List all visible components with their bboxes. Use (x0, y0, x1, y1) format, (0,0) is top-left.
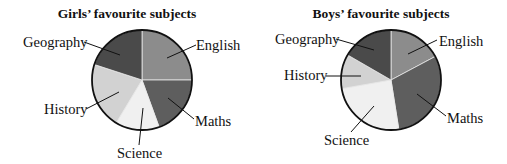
slice-label-english: English (439, 33, 484, 49)
slice-label-english: English (196, 37, 241, 53)
pie-svg: English Maths Science History Geography (254, 0, 507, 164)
slice-label-science: Science (117, 145, 162, 161)
slice-label-history: History (284, 67, 328, 83)
slice-label-history: History (44, 101, 88, 117)
slice-label-maths: Maths (195, 113, 232, 129)
slice-label-science: Science (324, 132, 369, 148)
slice-label-geography: Geography (275, 31, 340, 47)
pie-svg: English Maths Science History Geography (0, 0, 254, 164)
girls-pie-chart: Girls’ favourite subjects English Maths … (0, 0, 254, 164)
slice-label-maths: Maths (447, 110, 484, 126)
slice-label-geography: Geography (23, 34, 88, 50)
boys-pie-chart: Boys’ favourite subjects English Maths S… (254, 0, 507, 164)
